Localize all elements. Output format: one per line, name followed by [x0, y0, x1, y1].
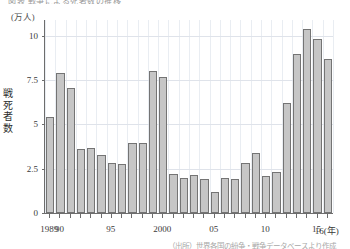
bar	[324, 59, 332, 213]
x-axis-labels: 19899095200005101516(年)	[0, 224, 350, 238]
chart-title-clipped: 図表 戦争による死者数の推移	[8, 0, 258, 4]
x-tick-mark	[245, 214, 246, 218]
bar	[128, 143, 136, 213]
bar	[190, 175, 198, 213]
x-tick-mark	[183, 214, 184, 218]
bar	[56, 73, 64, 213]
bar	[303, 29, 311, 213]
x-tick-mark	[255, 214, 256, 218]
x-tick-mark	[49, 214, 50, 218]
x-tick-mark	[275, 214, 276, 218]
bar	[180, 178, 188, 213]
x-tick-label: 05	[209, 224, 218, 234]
bar	[283, 103, 291, 213]
x-tick-mark	[101, 214, 102, 218]
bar	[139, 143, 147, 213]
x-tick-mark	[142, 214, 143, 218]
bar	[262, 176, 270, 213]
bar	[313, 39, 321, 213]
bar-series	[45, 20, 333, 213]
bar	[149, 71, 157, 213]
bar	[67, 88, 75, 213]
bar	[169, 174, 177, 213]
bar	[221, 178, 229, 213]
x-tick-mark	[214, 214, 215, 218]
bar	[200, 179, 208, 213]
x-axis-ticks	[44, 214, 332, 220]
x-tick-label: 95	[106, 224, 115, 234]
x-tick-mark	[193, 214, 194, 218]
bar	[97, 155, 105, 213]
x-tick-mark	[224, 214, 225, 218]
y-tick-mark	[42, 80, 46, 81]
x-tick-label: 10	[261, 224, 270, 234]
x-tick-mark	[70, 214, 71, 218]
chart-figure: 図表 戦争による死者数の推移 (万人) 戦死者数 02.557.510 1989…	[0, 0, 350, 249]
x-tick-mark	[90, 214, 91, 218]
bar	[272, 172, 280, 213]
y-tick-label: 0	[4, 208, 38, 218]
x-tick-mark	[327, 214, 328, 218]
bar	[46, 117, 54, 213]
bar	[241, 163, 249, 213]
y-tick-mark	[42, 124, 46, 125]
source-note: （出所）世界各国の紛争・戦争データベースより作成	[168, 240, 350, 249]
bar	[252, 153, 260, 213]
x-tick-mark	[265, 214, 266, 218]
y-tick-label: 7.5	[4, 75, 38, 85]
x-tick-mark	[59, 214, 60, 218]
y-tick-mark	[42, 36, 46, 37]
bar	[231, 179, 239, 213]
x-tick-mark	[173, 214, 174, 218]
y-axis-unit-label: (万人)	[11, 10, 35, 22]
y-tick-label: 10	[4, 31, 38, 41]
x-tick-mark	[162, 214, 163, 218]
bar	[108, 163, 116, 213]
x-tick-label: 90	[55, 224, 64, 234]
x-tick-mark	[286, 214, 287, 218]
x-tick-mark	[131, 214, 132, 218]
x-tick-mark	[306, 214, 307, 218]
bar	[293, 54, 301, 213]
gridline-vertical	[333, 20, 334, 213]
y-tick-label: 5	[4, 119, 38, 129]
x-tick-mark	[152, 214, 153, 218]
x-tick-mark	[317, 214, 318, 218]
bar	[159, 77, 167, 213]
x-tick-label: 2000	[153, 224, 171, 234]
x-tick-label: 16(年)	[315, 224, 339, 237]
x-tick-mark	[296, 214, 297, 218]
y-tick-label: 2.5	[4, 164, 38, 174]
bar	[211, 192, 219, 213]
bar	[77, 149, 85, 213]
bar	[87, 148, 95, 213]
x-tick-mark	[80, 214, 81, 218]
x-tick-mark	[234, 214, 235, 218]
y-tick-mark	[42, 169, 46, 170]
x-tick-mark	[203, 214, 204, 218]
x-tick-mark	[121, 214, 122, 218]
plot-area: 02.557.510	[44, 20, 333, 214]
x-tick-mark	[111, 214, 112, 218]
bar	[118, 164, 126, 213]
